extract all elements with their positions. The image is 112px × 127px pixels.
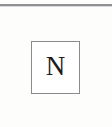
north-indicator-box: N	[31, 41, 80, 94]
page-canvas: N	[0, 0, 112, 127]
horizontal-rule	[0, 4, 112, 6]
north-letter-label: N	[46, 53, 66, 80]
